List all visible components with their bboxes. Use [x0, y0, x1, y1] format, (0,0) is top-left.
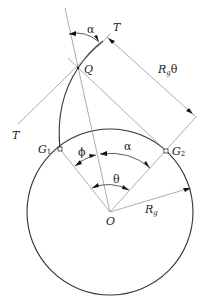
label-Rg: Rg — [144, 203, 158, 217]
radial-line-OQ — [65, 8, 110, 212]
point-G1 — [58, 147, 62, 151]
label-O: O — [106, 215, 115, 228]
label-Q: Q — [84, 63, 93, 76]
arrowhead-icon — [92, 183, 99, 188]
dimension-extension-T — [98, 34, 110, 47]
generating-line-QG2 — [68, 58, 166, 151]
involute-diagram: α T Q Rgθ T G1 G2 ϕ α θ O Rg — [0, 0, 208, 308]
label-G1: G1 — [38, 143, 51, 156]
label-alpha-top: α — [87, 23, 95, 36]
label-G2: G2 — [172, 145, 185, 158]
label-Rg-theta: Rgθ — [157, 63, 178, 77]
dimension-line-Rg-theta — [107, 37, 196, 117]
radial-line-OG2 — [110, 117, 196, 212]
label-phi: ϕ — [78, 146, 86, 159]
alpha-arc-mid — [100, 153, 150, 168]
point-G2 — [164, 149, 168, 153]
arrowhead-icon — [144, 161, 150, 168]
arrowhead-icon — [89, 154, 96, 158]
label-T-top: T — [113, 21, 122, 34]
arrowhead-icon — [122, 185, 129, 190]
involute-curve — [59, 41, 103, 149]
label-theta: θ — [113, 173, 120, 186]
point-Q — [77, 67, 79, 69]
label-T-left: T — [12, 129, 21, 142]
label-alpha-mid: α — [124, 140, 132, 153]
arrowhead-icon — [75, 160, 82, 166]
